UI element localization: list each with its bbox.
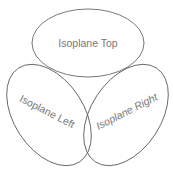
isoplane-diagram: Isoplane Top Isoplane Left Isoplane Righ… <box>0 0 173 178</box>
isoplane-left-group: Isoplane Left <box>0 49 109 178</box>
isoplane-top-label: Isoplane Top <box>58 37 118 49</box>
isoplane-left-label: Isoplane Left <box>18 92 77 130</box>
isoplane-right-label: Isoplane Right <box>94 90 160 132</box>
isoplane-right-group: Isoplane Right <box>66 49 173 178</box>
isoplane-top-group: Isoplane Top <box>32 9 144 77</box>
